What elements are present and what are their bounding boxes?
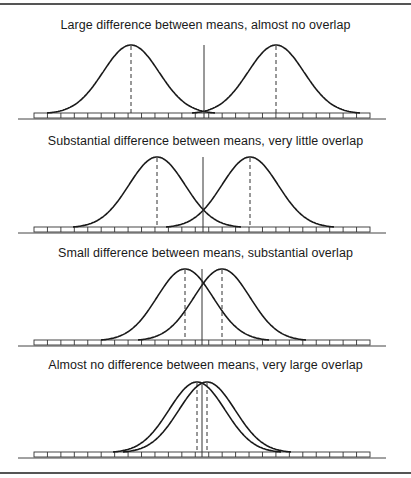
bottom-rule bbox=[0, 472, 411, 474]
axis-strip bbox=[34, 113, 370, 118]
distribution-diagram bbox=[0, 0, 411, 478]
axis-strip bbox=[34, 227, 370, 232]
